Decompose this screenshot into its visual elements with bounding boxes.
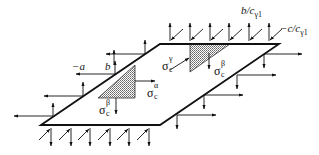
- label-minus-a: −a: [72, 61, 85, 72]
- sigma-alpha-sup: α: [154, 82, 158, 90]
- sigma-beta-right-sup: β: [221, 60, 225, 68]
- sigma-gamma-sup: γ: [169, 55, 173, 63]
- label-sigma-alpha: σ α c: [147, 87, 153, 99]
- label-b-over-c-gamma1: b/cγ1: [241, 5, 262, 19]
- bottom-edge-arrows: [39, 128, 149, 146]
- sigma-beta-left-symbol: σ: [99, 103, 105, 117]
- sigma-alpha-symbol: σ: [147, 86, 153, 100]
- label-sigma-beta-left: σ β c: [99, 104, 105, 116]
- sigma-gamma-sub: c: [169, 66, 173, 74]
- sigma-gamma-symbol: σ: [162, 59, 168, 73]
- sigma-beta-right-symbol: σ: [214, 64, 220, 78]
- label-sigma-beta-right: σ β c: [214, 65, 220, 77]
- sigma-beta-right-sub: c: [221, 71, 225, 79]
- label-sigma-gamma: σ γ c: [162, 60, 168, 72]
- top-edge-arrows: [170, 23, 282, 41]
- label-b-over-c-main: b/c: [241, 4, 254, 16]
- label-b-over-c-sub: γ1: [254, 10, 262, 19]
- label-b: b: [105, 61, 111, 72]
- label-minus-c-over-c-main: −c/c: [280, 22, 300, 34]
- sigma-alpha-sub: c: [154, 93, 158, 101]
- sigma-beta-left-sub: c: [106, 110, 110, 118]
- plate-diagram: [0, 0, 319, 155]
- plate-outline: [41, 44, 279, 125]
- label-minus-c-over-c-sub: γ1: [300, 28, 308, 37]
- label-minus-c-over-c-gamma1: −c/cγ1: [280, 23, 308, 37]
- sigma-beta-left-sup: β: [106, 99, 110, 107]
